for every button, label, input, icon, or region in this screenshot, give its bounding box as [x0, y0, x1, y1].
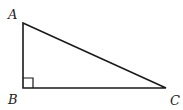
triangle-abc — [23, 23, 166, 88]
right-angle-marker — [23, 78, 33, 88]
vertex-label-b: B — [7, 92, 18, 107]
vertex-label-a: A — [7, 7, 17, 22]
vertex-label-c: C — [170, 93, 180, 108]
triangle-diagram: A B C — [0, 0, 183, 110]
